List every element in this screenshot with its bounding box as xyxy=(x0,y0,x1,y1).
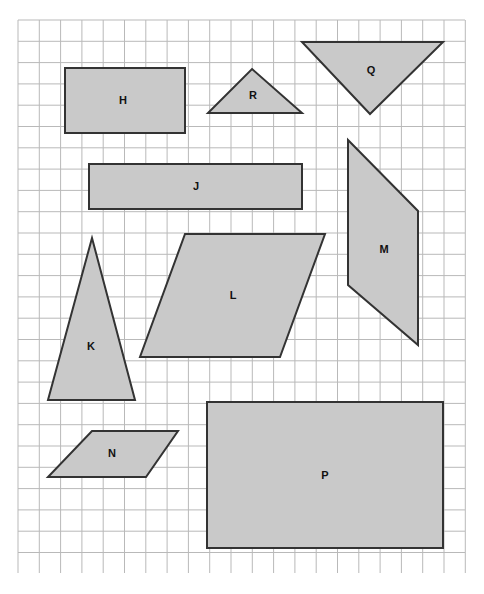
shape-label-k: K xyxy=(87,340,95,352)
shape-label-m: M xyxy=(379,243,388,255)
shape-label-h: H xyxy=(119,94,127,106)
shape-label-j: J xyxy=(193,180,199,192)
shape-label-r: R xyxy=(249,89,257,101)
shape-label-q: Q xyxy=(367,64,376,76)
shape-label-n: N xyxy=(108,447,116,459)
shape-worksheet: HRQJMLKNP xyxy=(0,0,484,594)
shape-label-p: P xyxy=(321,469,328,481)
shape-label-l: L xyxy=(230,289,237,301)
shape-q[interactable] xyxy=(302,42,443,114)
shapes-group: HRQJMLKNP xyxy=(48,42,443,548)
shape-canvas: HRQJMLKNP xyxy=(0,0,484,594)
